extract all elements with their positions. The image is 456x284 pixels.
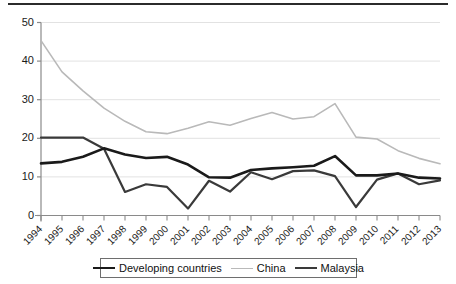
y-tick-label-20: 20 bbox=[8, 132, 34, 143]
line-swatch-malaysia-icon bbox=[295, 267, 317, 269]
y-tick-label-0: 0 bbox=[8, 210, 34, 221]
y-tick-label-50: 50 bbox=[8, 17, 34, 28]
legend-label: Developing countries bbox=[119, 262, 222, 274]
series-line-china bbox=[41, 41, 440, 164]
series-line-developing-countries bbox=[41, 148, 440, 178]
chart-figure: 50403020100 1994199519961997199819992000… bbox=[0, 0, 456, 284]
legend-entry-malaysia[interactable]: Malaysia bbox=[295, 262, 364, 274]
line-swatch-china-icon bbox=[231, 268, 253, 269]
legend-entry-china[interactable]: China bbox=[231, 262, 286, 274]
legend-label: China bbox=[257, 262, 286, 274]
y-tick-label-40: 40 bbox=[8, 55, 34, 66]
y-tick-label-10: 10 bbox=[8, 171, 34, 182]
legend-label: Malaysia bbox=[321, 262, 364, 274]
line-swatch-developing-icon bbox=[93, 267, 115, 269]
chart-legend: Developing countriesChinaMalaysia bbox=[100, 258, 357, 278]
y-tick-label-30: 30 bbox=[8, 94, 34, 105]
legend-entry-developing-countries[interactable]: Developing countries bbox=[93, 262, 222, 274]
